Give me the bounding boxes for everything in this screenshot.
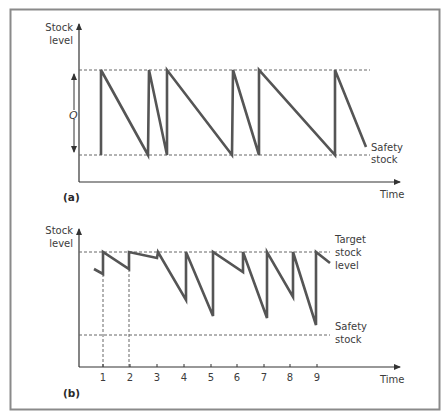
tick-label: 5 [208, 372, 214, 383]
panel-a-label: (a) [63, 191, 80, 203]
q-label: Q [69, 109, 78, 122]
panel-b-y-label-2: level [49, 238, 73, 249]
tick-label: 9 [314, 372, 320, 383]
tick-label: 2 [127, 372, 133, 383]
panel-b-tick-labels: 1 2 3 4 5 6 7 8 9 [100, 372, 320, 383]
panel-a-y-label-1: Stock [45, 22, 73, 33]
tick-label: 7 [261, 372, 267, 383]
target-label-2: stock [335, 247, 362, 258]
panel-a-y-label-2: level [49, 35, 73, 46]
panel-a-stock-line [101, 70, 366, 155]
panel-a-safety-label-2: stock [371, 154, 398, 165]
tick-label: 8 [287, 372, 293, 383]
panel-b-y-label-1: Stock [45, 225, 73, 236]
panel-a: Q Stock level Safety stock Time (a) [45, 22, 404, 203]
tick-label: 1 [100, 372, 106, 383]
panel-b-safety-label-1: Safety [335, 321, 367, 332]
target-label-3: level [335, 260, 359, 271]
tick-label: 4 [181, 372, 187, 383]
panel-a-x-label: Time [379, 189, 404, 200]
target-label-1: Target [334, 234, 366, 245]
tick-label: 3 [154, 372, 160, 383]
panel-b-label: (b) [63, 387, 80, 399]
panel-b-safety-label-2: stock [335, 334, 362, 345]
panel-a-safety-label-1: Safety [371, 142, 403, 153]
stock-control-diagram: Q Stock level Safety stock Time (a) [0, 0, 448, 418]
tick-label: 6 [234, 372, 240, 383]
panel-b: 1 2 3 4 5 6 7 8 9 Stock level Target sto… [45, 225, 404, 399]
panel-b-x-label: Time [379, 374, 404, 385]
